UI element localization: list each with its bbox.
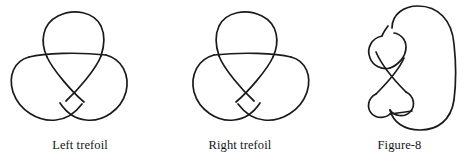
figure-left-trefoil: Left trefoil [0, 0, 160, 165]
right-trefoil-arc-left [238, 57, 309, 120]
figure8-arc-upper-right-loop [390, 33, 406, 68]
caption-right-trefoil: Right trefoil [160, 138, 320, 153]
caption-left-trefoil: Left trefoil [0, 138, 160, 153]
figure8-arc-lower-left-loop [369, 94, 390, 117]
figure-right-trefoil: Right trefoil [160, 0, 320, 165]
left-trefoil-arc-top [43, 12, 104, 57]
figure-figure-eight: Figure-8 [330, 0, 469, 165]
knot-diagram-board: Left trefoil Right trefoil [0, 0, 469, 165]
left-trefoil-arc-diagonal-a [47, 57, 84, 102]
left-trefoil-arc-left [11, 57, 82, 120]
figure8-arc-middle-diagonal-b [376, 58, 404, 94]
left-trefoil-drawing [0, 0, 160, 140]
figure-eight-drawing [330, 0, 469, 140]
figure8-arc-upper-left-loop [369, 36, 390, 69]
left-trefoil-arc-diagonal-b [66, 56, 101, 101]
right-trefoil-arc-top [216, 12, 277, 57]
figure8-arc-middle-diagonal-a [376, 52, 406, 92]
figure8-arc-upper-entry [382, 26, 388, 36]
right-trefoil-arc-upper-bar [214, 53, 291, 57]
right-trefoil-arc-diagonal-b [219, 56, 254, 101]
right-trefoil-drawing [160, 0, 320, 140]
figure8-outer-loop [390, 6, 456, 130]
caption-figure-eight: Figure-8 [330, 138, 469, 153]
left-trefoil-arc-upper-bar [29, 53, 106, 57]
right-trefoil-arc-diagonal-a [236, 57, 273, 102]
